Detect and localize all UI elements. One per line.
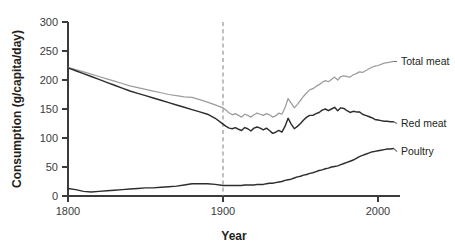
x-tick-label: 1800 xyxy=(56,205,80,217)
series-line-red-meat xyxy=(68,68,394,134)
y-tick-label: 250 xyxy=(40,45,58,57)
line-chart: 050100150200250300 180019002000 Total me… xyxy=(0,0,455,251)
y-tick-label: 100 xyxy=(40,132,58,144)
series-label-total-meat: Total meat xyxy=(401,55,450,67)
x-axis-tick-labels: 180019002000 xyxy=(56,205,390,217)
chart-figure: 050100150200250300 180019002000 Total me… xyxy=(0,0,455,251)
y-axis-tick-labels: 050100150200250300 xyxy=(40,16,58,202)
y-tick-label: 50 xyxy=(46,161,58,173)
leader-line-poultry xyxy=(394,148,398,151)
y-axis-tick-marks xyxy=(62,22,68,196)
y-tick-label: 0 xyxy=(52,190,58,202)
x-tick-label: 1900 xyxy=(211,205,235,217)
x-tick-label: 2000 xyxy=(366,205,390,217)
x-axis-title: Year xyxy=(221,229,247,243)
series-line-poultry xyxy=(68,148,394,192)
y-tick-label: 150 xyxy=(40,103,58,115)
series-label-poultry: Poultry xyxy=(401,145,434,157)
y-axis-title: Consumption (g/capita/day) xyxy=(10,30,24,188)
y-tick-label: 300 xyxy=(40,16,58,28)
x-axis-tick-marks xyxy=(68,196,378,202)
series-label-red-meat: Red meat xyxy=(401,117,447,129)
y-tick-label: 200 xyxy=(40,74,58,86)
leader-line-red-meat xyxy=(394,122,398,124)
